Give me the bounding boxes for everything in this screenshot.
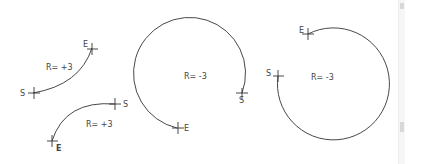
end-point-marker-icon	[87, 43, 98, 55]
radius-label: R= -3	[311, 73, 334, 82]
start-label: S	[239, 96, 244, 105]
start-point-marker-icon	[28, 87, 40, 99]
scrollbar-top-handle[interactable]	[400, 3, 404, 9]
end-label: E	[299, 26, 304, 35]
scrollbar-thumb[interactable]	[400, 122, 404, 132]
end-label: E	[83, 40, 88, 49]
start-point-marker-icon	[109, 98, 121, 110]
start-label: S	[20, 89, 25, 98]
arc-4: S E R= -3	[266, 26, 389, 140]
end-label: E	[184, 124, 189, 133]
radius-label: R= -3	[184, 72, 207, 81]
arc-2: S E R= +3	[47, 98, 128, 153]
start-label: S	[266, 69, 271, 78]
vertical-scrollbar[interactable]	[398, 0, 405, 164]
end-point-marker-icon	[172, 122, 184, 134]
radius-label: R= +3	[46, 63, 73, 72]
radius-label: R= +3	[86, 120, 113, 129]
end-label: E	[56, 144, 61, 153]
arc-3: S E R= -3	[134, 17, 248, 134]
arc-radius-diagram: S E R= +3 S E R= +3 S E R= -3	[0, 0, 400, 164]
arc-1: S E R= +3	[20, 40, 98, 99]
start-label: S	[123, 100, 128, 109]
start-point-marker-icon	[273, 70, 284, 82]
